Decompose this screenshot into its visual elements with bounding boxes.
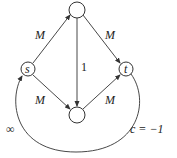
label-top-t: M xyxy=(104,28,116,42)
node-top xyxy=(69,2,85,18)
node-s-label: s xyxy=(25,62,30,76)
label-s-bottom: M xyxy=(34,93,46,107)
label-return-capacity: ∞ xyxy=(6,122,15,136)
node-bottom xyxy=(69,107,85,123)
label-s-top: M xyxy=(34,28,46,42)
label-bottom-t: M xyxy=(104,93,116,107)
label-top-bottom: 1 xyxy=(81,60,87,74)
flow-network-diagram: s t M M M M 1 ∞ c = −1 xyxy=(0,0,177,158)
label-return-cost: c = −1 xyxy=(130,122,164,136)
